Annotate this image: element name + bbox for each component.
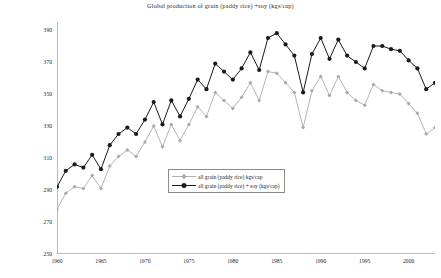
data-point (266, 36, 270, 40)
x-tick-label: 1980 (220, 258, 246, 264)
legend-item-grain-soy[interactable]: all grain (paddy rice) + soy (kgs/cap) (171, 181, 280, 190)
data-point (108, 143, 112, 147)
y-tick-label: 310 (30, 155, 52, 161)
data-point (169, 98, 173, 102)
data-point (336, 74, 340, 78)
data-point (222, 70, 226, 74)
data-point (187, 122, 191, 126)
data-point (310, 89, 314, 93)
data-point (292, 54, 296, 58)
data-point (143, 140, 147, 144)
data-point (125, 126, 129, 130)
data-point (371, 44, 375, 48)
plot-svg (57, 22, 435, 254)
data-point (319, 74, 323, 78)
data-point (152, 100, 156, 104)
data-point (213, 62, 217, 66)
data-point (169, 122, 173, 126)
data-point (328, 94, 332, 98)
data-point (72, 162, 76, 166)
data-point (231, 78, 235, 82)
x-tick-label: 1965 (88, 258, 114, 264)
data-point (389, 47, 393, 51)
data-point (257, 98, 261, 102)
x-tick-label: 1970 (132, 258, 158, 264)
legend-item-grain[interactable]: all grain (paddy rice) kgs/cap (171, 172, 280, 181)
data-point (283, 42, 287, 46)
data-point (204, 87, 208, 91)
data-point (187, 97, 191, 101)
chart-legend: all grain (paddy rice) kgs/cap all grain… (168, 169, 285, 193)
series-line-1 (57, 33, 435, 187)
legend-swatch-grain (171, 172, 197, 181)
data-point (327, 57, 331, 61)
data-point (407, 58, 411, 62)
y-tick-label: 350 (30, 91, 52, 97)
x-tick-label: 1995 (352, 258, 378, 264)
data-point (160, 145, 164, 149)
y-tick-label: 250 (30, 251, 52, 257)
x-tick-label: 1985 (264, 258, 290, 264)
data-point (257, 68, 261, 72)
chart-figure: Global production of grain (paddy rice) … (0, 0, 441, 278)
x-tick-label: 1990 (308, 258, 334, 264)
legend-label-grain: all grain (paddy rice) kgs/cap (197, 174, 262, 180)
data-point (143, 118, 147, 122)
y-tick-label: 330 (30, 123, 52, 129)
data-point (389, 90, 393, 94)
data-point (64, 169, 68, 173)
y-tick-label: 290 (30, 187, 52, 193)
plot-area (57, 22, 435, 254)
data-point (275, 31, 279, 35)
data-point (81, 166, 85, 170)
data-point (319, 36, 323, 40)
data-point (380, 44, 384, 48)
data-point (116, 132, 120, 136)
y-tick-label: 390 (30, 27, 52, 33)
data-point (415, 66, 419, 70)
data-point (301, 126, 305, 130)
data-point (363, 66, 367, 70)
legend-label-grain-soy: all grain (paddy rice) + soy (kgs/cap) (197, 183, 280, 189)
data-point (248, 50, 252, 54)
data-point (354, 60, 358, 64)
data-point (99, 167, 103, 171)
data-point (152, 124, 156, 128)
y-tick-label: 270 (30, 219, 52, 225)
data-point (196, 78, 200, 82)
data-point (57, 185, 59, 189)
data-point (345, 54, 349, 58)
data-point (178, 138, 182, 142)
x-tick-label: 1960 (44, 258, 70, 264)
x-tick-label: 1975 (176, 258, 202, 264)
data-point (310, 52, 314, 56)
legend-swatch-grain-soy (171, 181, 197, 190)
data-point (266, 70, 270, 74)
data-point (134, 132, 138, 136)
data-point (398, 49, 402, 53)
data-point (301, 90, 305, 94)
data-point (336, 38, 340, 42)
data-point (424, 87, 428, 91)
data-point (248, 81, 252, 85)
y-tick-label: 370 (30, 59, 52, 65)
data-point (90, 153, 94, 157)
data-point (160, 122, 164, 126)
x-tick-label: 2000 (396, 258, 422, 264)
data-point (240, 66, 244, 70)
data-point (363, 103, 367, 107)
chart-title: Global production of grain (paddy rice) … (0, 2, 441, 9)
data-point (178, 114, 182, 118)
